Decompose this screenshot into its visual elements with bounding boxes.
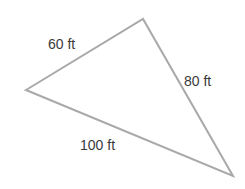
side-label-80: 80 ft [184,74,211,88]
side-label-60: 60 ft [48,37,75,51]
side-label-100: 100 ft [80,138,115,152]
triangle-diagram [0,0,245,189]
